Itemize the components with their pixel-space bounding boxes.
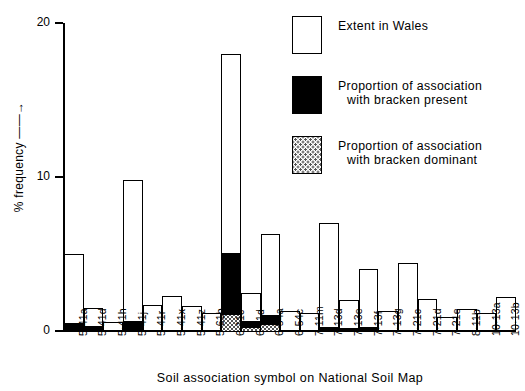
legend-swatch-black — [292, 76, 322, 114]
x-tick-label-5·61b: 5·61b — [215, 308, 226, 336]
bar-segment-present — [221, 253, 241, 315]
x-tick-label-7·11m: 7·11m — [314, 306, 325, 336]
x-tick-label-6·11c: 6·11c — [235, 310, 246, 337]
x-tick-label-7·13e: 7·13e — [353, 308, 364, 336]
legend-label-line2: with bracken dominant — [338, 153, 482, 167]
legend-item-2: Proportion of associationwith bracken do… — [292, 136, 522, 182]
legend-swatch-open — [292, 16, 322, 54]
legend-label-line2: with bracken present — [338, 93, 482, 107]
x-tick-label-7·21c: 7·21c — [412, 309, 423, 336]
x-tick-label-5·41j: 5·41j — [137, 312, 148, 336]
x-tick-label-10·13a: 10·13a — [491, 302, 502, 336]
x-tick-label-7·21d: 7·21d — [432, 308, 443, 336]
y-axis-label: % frequency ——→ — [12, 52, 26, 262]
y-tick-20 — [55, 22, 63, 24]
chart-legend: Extent in WalesProportion of association… — [292, 16, 522, 196]
bar-6·11c — [221, 54, 241, 331]
x-tick-label-5·41d: 5·41d — [97, 308, 108, 336]
x-tick-label-5·41r: 5·41r — [156, 310, 167, 336]
x-tick-label-7·21e: 7·21e — [451, 308, 462, 336]
x-tick-label-7·13g: 7·13g — [392, 308, 403, 336]
x-tick-label-5·41z: 5·41z — [196, 309, 207, 336]
x-tick-label-8·11b: 8·11b — [471, 309, 482, 336]
legend-swatch-dotted — [292, 136, 322, 174]
y-tick-10 — [55, 176, 63, 178]
legend-label-2: Proportion of associationwith bracken do… — [338, 139, 482, 167]
x-axis-label: Soil association symbol on National Soil… — [64, 371, 516, 385]
x-tick-label-5·41a: 5·41a — [78, 308, 89, 336]
x-tick-label-6·11d: 6·11d — [255, 309, 266, 336]
x-tick-label-7·13f: 7·13f — [373, 311, 384, 336]
x-tick-label-10·13b: 10·13b — [510, 302, 521, 336]
bar-chart: 01020 % frequency ——→ 5·41a5·41d5·41h5·4… — [0, 0, 525, 391]
x-tick-label-5·41h: 5·41h — [117, 308, 128, 336]
y-tick-label-0: 0 — [16, 324, 50, 336]
legend-label-0: Extent in Wales — [338, 19, 428, 33]
x-tick-label-6·54a: 6·54a — [274, 308, 285, 336]
y-tick-label-20: 20 — [16, 16, 50, 28]
x-tick-label-6·54c: 6·54c — [294, 309, 305, 336]
legend-label-1: Proportion of associationwith bracken pr… — [338, 79, 482, 107]
y-tick-0 — [55, 330, 63, 332]
x-tick-label-5·41x: 5·41x — [176, 309, 187, 336]
legend-item-0: Extent in Wales — [292, 16, 522, 62]
legend-item-1: Proportion of associationwith bracken pr… — [292, 76, 522, 122]
x-tick-label-7·13d: 7·13d — [333, 308, 344, 336]
